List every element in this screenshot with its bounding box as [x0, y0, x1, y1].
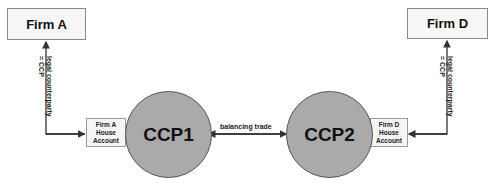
firm-d-label: Firm D [427, 16, 468, 31]
firm-a-edge-label: legal counterparty = CCP [37, 56, 53, 117]
firm-a-house-account: Firm A House Account [86, 118, 126, 147]
ccp1-node: CCP1 [125, 91, 212, 178]
ccp2-node: CCP2 [286, 91, 373, 178]
firm-d-house-account: Firm D House Account [370, 118, 408, 147]
ccp2-label: CCP2 [304, 124, 355, 146]
firm-a-box: Firm A [7, 8, 86, 40]
edge-label-line1: legal counterparty [46, 56, 53, 117]
firm-d-box: Firm D [407, 8, 488, 39]
balancing-trade-label: balancing trade [220, 123, 272, 130]
ccp1-label: CCP1 [143, 124, 194, 146]
edge-label-line1: legal counterparty [447, 56, 454, 117]
firm-a-label: Firm A [26, 17, 67, 32]
edge-label-line2: = CCP [439, 56, 446, 77]
edge-label-line2: = CCP [38, 56, 45, 77]
firm-d-edge-label: legal counterparty = CCP [438, 56, 454, 117]
